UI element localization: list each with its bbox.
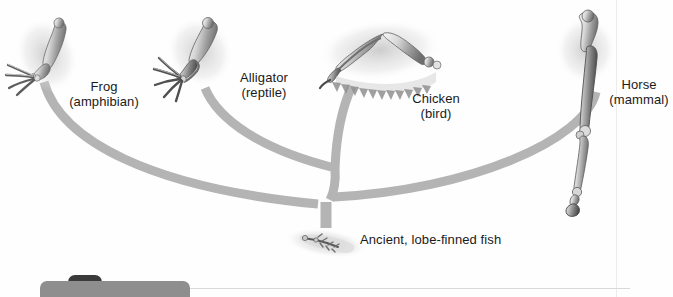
root-taxon-label: Ancient, lobe-finned fish	[360, 232, 501, 247]
taxon-clade-name: (bird)	[390, 106, 482, 121]
taxon-common-name: Horse	[606, 77, 672, 92]
branch-amniote-stem	[330, 168, 335, 200]
taxon-clade-name: (mammal)	[606, 92, 672, 107]
chicken-wing-skeleton	[315, 14, 445, 100]
taxon-clade-name: (amphibian)	[58, 94, 150, 109]
horse-foreleg-skeleton	[556, 10, 616, 216]
taxon-label-horse: Horse (mammal)	[606, 77, 672, 107]
taxon-label-frog: Frog (amphibian)	[58, 79, 150, 109]
branch-chicken	[335, 86, 352, 168]
lobe-finned-fish-fin-skeleton	[282, 223, 369, 262]
taxon-label-chicken: Chicken (bird)	[390, 91, 482, 121]
page-bottom-tab	[40, 281, 190, 297]
evolution-tree-figure: Frog (amphibian) Alligator (reptile) Chi…	[0, 0, 673, 297]
branch-alligator	[205, 88, 335, 168]
taxon-common-name: Frog	[58, 79, 150, 94]
page-bottom-rule	[190, 288, 630, 289]
phylogenetic-tree-graphic	[0, 0, 673, 297]
taxon-clade-name: (reptile)	[218, 85, 310, 100]
taxon-label-alligator: Alligator (reptile)	[218, 70, 310, 100]
page-edge-rule	[616, 0, 617, 297]
taxon-common-name: Chicken	[390, 91, 482, 106]
taxon-common-name: Alligator	[218, 70, 310, 85]
